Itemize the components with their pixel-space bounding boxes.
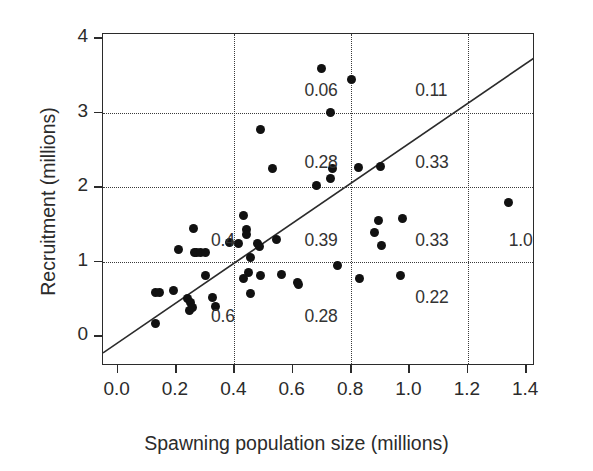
data-point [398, 214, 407, 223]
x-axis-title: Spawning population size (millions) [0, 432, 593, 455]
y-tick [94, 186, 102, 188]
x-tick [350, 365, 352, 373]
data-point [189, 224, 198, 233]
data-point [256, 271, 265, 280]
x-tick [117, 365, 119, 373]
y-tick-label: 0 [56, 323, 88, 345]
x-tick-label: 0.8 [320, 378, 380, 400]
x-tick [175, 365, 177, 373]
x-tick-label: 1.0 [378, 378, 438, 400]
y-tick [94, 335, 102, 337]
y-axis-title: Recruitment (millions) [37, 37, 60, 367]
data-point [208, 293, 217, 302]
cell-annotation: 1.0 [509, 230, 533, 251]
cell-annotation: 0.11 [415, 80, 447, 101]
y-tick-label: 4 [56, 25, 88, 47]
x-tick-label: 1.4 [495, 378, 555, 400]
y-tick [94, 37, 102, 39]
x-tick-label: 1.2 [437, 378, 497, 400]
gridline-x-1.2 [468, 34, 469, 364]
data-point [242, 230, 251, 239]
cell-annotation: 0.28 [304, 152, 337, 173]
data-point [169, 286, 178, 295]
x-tick-label: 0.6 [262, 378, 322, 400]
y-tick-label: 3 [56, 100, 88, 122]
cell-annotation: 0.06 [304, 80, 337, 101]
y-tick-label: 1 [56, 249, 88, 271]
scatter-plot-figure: 0.060.110.280.330.40.390.331.00.60.280.2… [0, 0, 593, 471]
data-point [239, 274, 248, 283]
x-tick [233, 365, 235, 373]
data-point [246, 289, 255, 298]
x-tick-label: 0.2 [145, 378, 205, 400]
x-tick [467, 365, 469, 373]
x-tick [292, 365, 294, 373]
x-tick [408, 365, 410, 373]
data-point [268, 164, 277, 173]
x-tick [525, 365, 527, 373]
data-point [347, 75, 356, 84]
y-tick [94, 261, 102, 263]
data-point [246, 253, 255, 262]
data-point [370, 228, 379, 237]
y-tick-label: 2 [56, 174, 88, 196]
cell-annotation: 0.39 [304, 230, 337, 251]
data-point [376, 162, 385, 171]
data-point [256, 125, 265, 134]
data-point [188, 303, 197, 312]
data-point [312, 181, 321, 190]
data-point [255, 242, 264, 251]
cell-annotation: 0.28 [304, 306, 337, 327]
data-point [277, 270, 286, 279]
cell-annotation: 0.33 [415, 230, 448, 251]
cell-annotation: 0.33 [415, 152, 448, 173]
y-tick [94, 112, 102, 114]
plot-area: 0.060.110.280.330.40.390.331.00.60.280.2… [102, 33, 534, 365]
cell-annotation: 0.6 [211, 306, 235, 327]
data-point [234, 239, 243, 248]
x-tick-label: 0.4 [203, 378, 263, 400]
cell-annotation: 0.4 [211, 230, 235, 251]
cell-annotation: 0.22 [415, 287, 448, 308]
x-tick-label: 0.0 [87, 378, 147, 400]
data-point [239, 211, 248, 220]
data-point [504, 198, 513, 207]
data-point [354, 163, 363, 172]
data-point [201, 248, 210, 257]
